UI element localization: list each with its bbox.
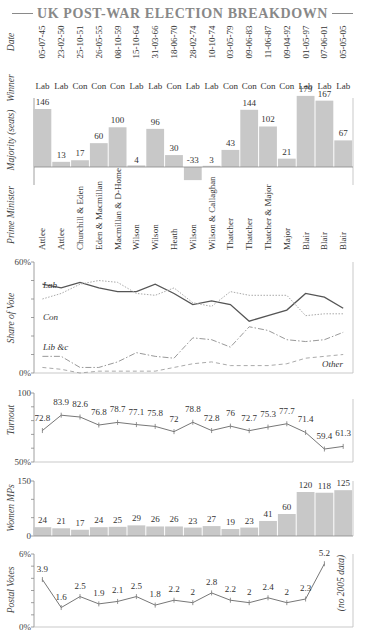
prime-minister-label: Major (282, 228, 292, 250)
majority-bar (297, 96, 315, 167)
legend-lab: Lab (42, 280, 58, 290)
majority-value: 4 (134, 155, 139, 165)
legend-lib: Lib &c (42, 342, 68, 352)
postal-value: 2.4 (262, 582, 274, 592)
women-value: 21 (57, 516, 66, 526)
turnout-value: 83.9 (53, 397, 69, 407)
prime-minister-label: Thatcher (225, 218, 235, 250)
postal-value: 2.5 (74, 581, 86, 591)
women-value: 26 (170, 514, 180, 524)
turnout-value: 72.8 (204, 413, 220, 423)
women-value: 41 (264, 509, 273, 519)
date-label: 07-06-01 (319, 26, 329, 59)
date-label: 03-05-79 (225, 25, 235, 58)
date-label: 11-06-87 (263, 25, 273, 58)
women-bar (184, 528, 202, 536)
turnout-ytick-top: 100 (18, 388, 32, 398)
women-value: 60 (282, 502, 292, 512)
women-ytick-bottom: 0 (27, 531, 32, 541)
women-bar (259, 521, 277, 536)
postal-value: 1.9 (93, 588, 105, 598)
date-label: 18-06-70 (169, 25, 179, 58)
turnout-value: 59.4 (317, 431, 333, 441)
majority-value: 179 (299, 84, 313, 94)
majority-value: 100 (111, 115, 125, 125)
prime-minister-label: Churchill & Eden (75, 186, 85, 250)
turnout-value: 72.8 (35, 413, 51, 423)
prime-minister-label: Attlee (56, 228, 66, 250)
women-value: 23 (245, 516, 255, 526)
turnout-value: 61.3 (335, 428, 351, 438)
women-bar (52, 528, 70, 536)
women-bar (165, 526, 183, 536)
winner-label: Con (223, 81, 239, 91)
turnout-value: 75.3 (260, 409, 276, 419)
majority-bar (146, 129, 164, 167)
date-label: 09-06-83 (244, 25, 254, 58)
majority-bar (278, 159, 296, 167)
row-label-prime-minister: Prime Minister (6, 186, 16, 245)
row-label-women-mps: Women MPs (6, 484, 16, 532)
winner-label: Lab (336, 81, 350, 91)
election-breakdown-chart: Date05-07-4523-02-5025-10-5126-05-5508-1… (0, 0, 365, 638)
prime-minister-label: Thatcher (244, 218, 254, 250)
postal-value: 1.8 (150, 589, 162, 599)
women-value: 17 (76, 518, 86, 528)
turnout-value: 78.8 (185, 404, 201, 414)
women-bar (240, 528, 258, 536)
date-label: 28-02-74 (188, 25, 198, 58)
prime-minister-label: Blair (338, 232, 348, 250)
winner-label: Con (242, 81, 258, 91)
women-bar (146, 526, 164, 536)
postal-no-data-note: (no 2005 data) (336, 555, 347, 611)
turnout-value: 82.6 (72, 399, 88, 409)
postal-ytick-top: 6% (19, 549, 32, 559)
women-value: 24 (38, 515, 48, 525)
winner-label: Lab (54, 81, 68, 91)
prime-minister-label: Wilson (188, 224, 198, 250)
prime-minister-label: Blair (319, 232, 329, 250)
majority-bar (334, 140, 352, 167)
women-value: 125 (336, 478, 350, 488)
date-label: 26-05-55 (94, 25, 104, 58)
postal-value: 2.5 (131, 581, 143, 591)
majority-value: 96 (151, 117, 161, 127)
majority-value: 43 (226, 138, 236, 148)
majority-value: 144 (242, 98, 256, 108)
winner-label: Con (166, 81, 182, 91)
postal-value: 3.9 (37, 564, 49, 574)
postal-value: 1.6 (56, 592, 68, 602)
women-ytick-top: 150 (18, 476, 32, 486)
postal-value: 2.2 (168, 584, 179, 594)
postal-value: 2.2 (225, 584, 236, 594)
women-value: 118 (318, 481, 332, 491)
women-value: 120 (299, 480, 313, 490)
postal-ytick-bottom: 0% (19, 622, 32, 632)
winner-label: Con (91, 81, 107, 91)
date-label: 05-05-05 (338, 25, 348, 58)
majority-value: 67 (339, 128, 349, 138)
majority-bar (71, 160, 89, 167)
prime-minister-label: Macmillan & D-Home (113, 168, 123, 250)
women-bar (278, 514, 296, 536)
winner-label: Lab (205, 81, 219, 91)
date-label: 31-03-66 (150, 25, 160, 58)
turnout-ytick-bottom: 50% (15, 457, 32, 467)
date-label: 01-05-97 (301, 25, 311, 58)
women-value: 29 (132, 513, 142, 523)
women-value: 27 (207, 514, 217, 524)
postal-value: 2.8 (206, 577, 218, 587)
date-label: 23-02-50 (56, 25, 66, 58)
turnout-value: 78.7 (110, 404, 126, 414)
majority-bar (52, 162, 70, 167)
share-line-lab (42, 282, 343, 321)
postal-value: 2.3 (300, 583, 312, 593)
majority-bar (259, 126, 277, 167)
row-label-winner: Winner (6, 74, 16, 102)
women-bar (109, 527, 127, 536)
turnout-value: 76 (226, 408, 236, 418)
winner-label: Lab (129, 81, 143, 91)
date-label: 25-10-51 (75, 26, 85, 59)
prime-minister-label: Eden & Macmillan (94, 181, 104, 250)
majority-value: 146 (36, 97, 50, 107)
